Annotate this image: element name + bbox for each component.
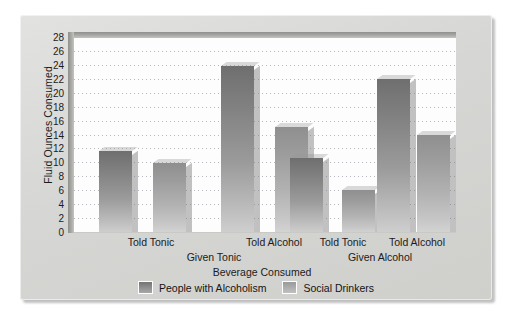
x-tick-label: Told Alcohol [372,236,462,248]
plot-area-wrapper [68,32,456,233]
bar-side-3d [450,134,456,233]
bar-side-3d [254,66,260,233]
x-tick-label: Told Tonic [106,236,196,248]
legend-swatch-dark [138,281,153,294]
bar-face [99,151,132,233]
bar [221,66,254,233]
chart-figure: Fluid Ounces Consumed 282624222018161412… [0,0,516,331]
bar-side-3d [132,150,138,233]
y-tick-label: 28 [42,33,64,43]
bar-side-3d [410,79,416,233]
bar-side-3d [323,158,329,233]
legend-item: People with Alcoholism [138,281,266,294]
legend-item: Social Drinkers [282,281,374,294]
bar [153,163,186,233]
y-tick-label: 22 [42,75,64,85]
bar [417,135,450,233]
bar-face [290,158,323,233]
y-axis-tick-labels: 2826242220181614121086420 [40,32,64,239]
bar [290,158,323,233]
bar [99,151,132,233]
y-tick-label: 12 [42,144,64,154]
bar-face [342,190,375,233]
gridline [74,65,456,66]
legend-label: Social Drinkers [303,282,374,294]
legend-swatch-light [282,281,297,294]
plot-area [74,38,456,233]
y-tick-label: 16 [42,117,64,127]
y-tick-label: 10 [42,158,64,168]
y-tick-label: 0 [42,228,64,238]
bar-side-3d [186,163,192,233]
legend-label: People with Alcoholism [159,282,266,294]
x-axis-title: Beverage Consumed [68,266,456,278]
bar-face [153,163,186,233]
y-tick-label: 8 [42,172,64,182]
y-tick-label: 24 [42,61,64,71]
y-tick-label: 20 [42,89,64,99]
chart-legend: People with AlcoholismSocial Drinkers [20,281,492,294]
gridline [74,51,456,52]
y-tick-label: 18 [42,103,64,113]
x-group-label: Given Tonic [169,251,259,263]
bar [377,79,410,233]
bar-face [377,79,410,233]
bar [342,190,375,233]
x-group-label: Given Alcohol [335,251,425,263]
x-axis-baseline [74,232,456,233]
y-tick-label: 14 [42,131,64,141]
y-tick-label: 4 [42,200,64,210]
bar-face [417,135,450,233]
y-tick-label: 26 [42,47,64,57]
chart-card: Fluid Ounces Consumed 282624222018161412… [20,15,492,300]
y-tick-label: 6 [42,186,64,196]
bar-face [221,66,254,233]
y-tick-label: 2 [42,214,64,224]
